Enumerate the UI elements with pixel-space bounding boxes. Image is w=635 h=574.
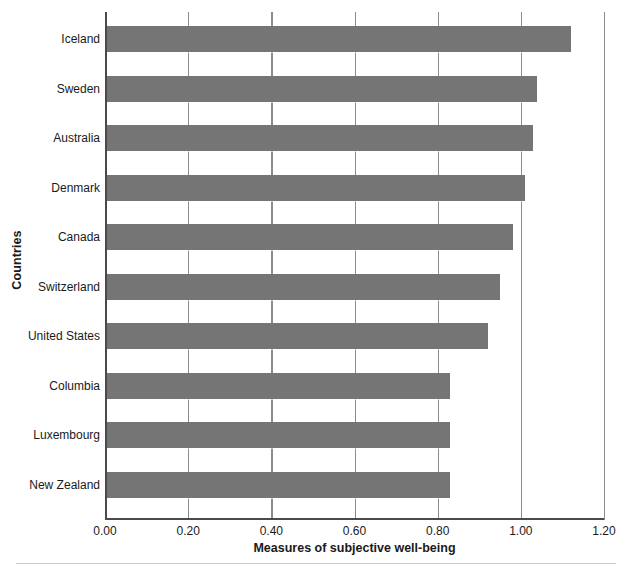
x-tick-label-1.20: 1.20 (592, 524, 615, 538)
x-tick-label-0.00: 0.00 (93, 524, 116, 538)
bar-australia (105, 125, 533, 151)
plot-area (105, 12, 604, 520)
x-tick-label-0.40: 0.40 (260, 524, 283, 538)
bar-united-states (105, 323, 488, 349)
category-label-canada: Canada (58, 224, 100, 250)
y-axis-line (105, 12, 107, 520)
x-tick-label-0.20: 0.20 (176, 524, 199, 538)
bar-new-zealand (105, 472, 450, 498)
category-label-sweden: Sweden (57, 76, 100, 102)
bar-denmark (105, 175, 525, 201)
x-axis-tick-labels: 0.000.200.400.600.801.001.20 (105, 524, 604, 542)
x-axis-title: Measures of subjective well-being (105, 541, 604, 555)
category-label-iceland: Iceland (61, 26, 100, 52)
bars (105, 12, 604, 520)
x-axis-line (105, 518, 604, 520)
category-label-australia: Australia (53, 125, 100, 151)
bar-switzerland (105, 274, 500, 300)
footer-divider (16, 563, 616, 564)
category-axis-labels: IcelandSwedenAustraliaDenmarkCanadaSwitz… (22, 20, 100, 520)
category-label-switzerland: Switzerland (38, 274, 100, 300)
category-label-new-zealand: New Zealand (29, 472, 100, 498)
category-label-luxembourg: Luxembourg (33, 422, 100, 448)
x-tick-label-1.00: 1.00 (509, 524, 532, 538)
bar-columbia (105, 373, 450, 399)
category-label-united-states: United States (28, 323, 100, 349)
bar-iceland (105, 26, 571, 52)
bar-sweden (105, 76, 537, 102)
bar-canada (105, 224, 513, 250)
category-label-denmark: Denmark (51, 175, 100, 201)
gridline-1.20 (604, 12, 605, 520)
x-tick-label-0.60: 0.60 (343, 524, 366, 538)
bar-chart-figure: Countries IcelandSwedenAustraliaDenmarkC… (0, 0, 635, 574)
category-label-columbia: Columbia (49, 373, 100, 399)
x-tick-label-0.80: 0.80 (426, 524, 449, 538)
bar-luxembourg (105, 422, 450, 448)
